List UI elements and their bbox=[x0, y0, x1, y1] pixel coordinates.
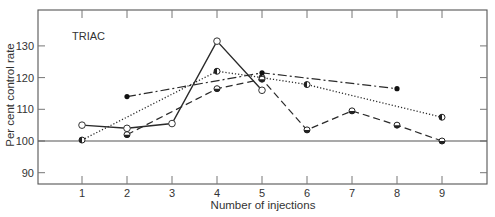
data-point-marker bbox=[169, 120, 176, 127]
x-tick-label: 6 bbox=[304, 187, 310, 199]
filled-circle-icon bbox=[124, 94, 129, 99]
data-point-marker bbox=[79, 137, 85, 143]
y-axis-title: Per cent control rate bbox=[4, 43, 16, 147]
x-tick-label: 4 bbox=[214, 187, 220, 199]
data-point-marker bbox=[394, 86, 399, 91]
y-tick-label: 110 bbox=[16, 103, 34, 115]
filled-circle-icon bbox=[259, 70, 264, 75]
data-point-marker bbox=[349, 108, 355, 114]
x-tick-label: 8 bbox=[394, 187, 400, 199]
x-tick-label: 7 bbox=[349, 187, 355, 199]
data-point-marker bbox=[214, 86, 220, 92]
open-circle-icon bbox=[214, 38, 221, 45]
open-circle-icon bbox=[169, 120, 176, 127]
data-point-marker bbox=[259, 76, 265, 82]
y-tick-label: 130 bbox=[16, 40, 34, 52]
open-circle-icon bbox=[259, 87, 266, 94]
open-circle-icon bbox=[124, 125, 131, 132]
data-point-marker bbox=[124, 132, 130, 138]
x-tick-label: 3 bbox=[169, 187, 175, 199]
y-tick-label: 120 bbox=[16, 72, 34, 84]
data-point-marker bbox=[439, 114, 445, 120]
data-point-marker bbox=[214, 68, 220, 74]
data-point-marker bbox=[124, 125, 131, 132]
filled-circle-icon bbox=[394, 86, 399, 91]
data-point-marker bbox=[259, 87, 266, 94]
data-point-marker bbox=[304, 127, 310, 133]
tick-labels: 12345678990100110120130 bbox=[16, 40, 445, 199]
line-chart: 12345678990100110120130 TRIAC Number of … bbox=[0, 0, 495, 217]
x-tick-label: 1 bbox=[79, 187, 85, 199]
y-tick-label: 100 bbox=[16, 135, 34, 147]
open-circle-icon bbox=[79, 122, 86, 129]
x-tick-label: 9 bbox=[439, 187, 445, 199]
x-axis-title: Number of injections bbox=[211, 199, 316, 211]
data-point-marker bbox=[439, 138, 445, 144]
data-point-marker bbox=[79, 122, 86, 129]
data-point-marker bbox=[214, 38, 221, 45]
axis-ticks bbox=[38, 10, 487, 184]
plot-frame bbox=[38, 10, 487, 184]
data-point-marker bbox=[124, 94, 129, 99]
y-tick-label: 90 bbox=[22, 167, 34, 179]
panel-label: TRIAC bbox=[72, 30, 105, 42]
data-point-marker bbox=[394, 122, 400, 128]
data-point-marker bbox=[304, 82, 310, 88]
x-tick-label: 5 bbox=[259, 187, 265, 199]
x-tick-label: 2 bbox=[124, 187, 130, 199]
plot-border bbox=[38, 10, 487, 184]
data-point-marker bbox=[259, 70, 264, 75]
series-line-solid bbox=[82, 41, 262, 128]
